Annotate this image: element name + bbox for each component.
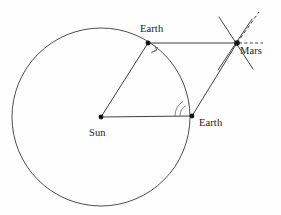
sun-to-earth-top-line bbox=[101, 43, 148, 117]
sun-to-earth-bottom-line bbox=[101, 116, 192, 117]
sun-node-dot bbox=[99, 115, 104, 120]
astronomy-diagram: Earth Earth Sun Mars bbox=[0, 0, 281, 215]
mars-node-dot bbox=[234, 40, 240, 46]
sun-label: Sun bbox=[89, 127, 106, 138]
mars-dashed-sight-line bbox=[237, 12, 259, 43]
earth-bottom-node-dot bbox=[190, 114, 195, 119]
earth-top-node-dot bbox=[146, 41, 151, 46]
earth-bottom-label: Earth bbox=[199, 117, 223, 128]
diagram-canvas: Earth Earth Sun Mars bbox=[0, 0, 281, 215]
earth-bottom-to-mars-line bbox=[192, 43, 237, 116]
mars-label: Mars bbox=[240, 45, 262, 56]
earth-top-label: Earth bbox=[140, 23, 164, 34]
angle-arc-inner-earth-bottom bbox=[180, 106, 186, 116]
